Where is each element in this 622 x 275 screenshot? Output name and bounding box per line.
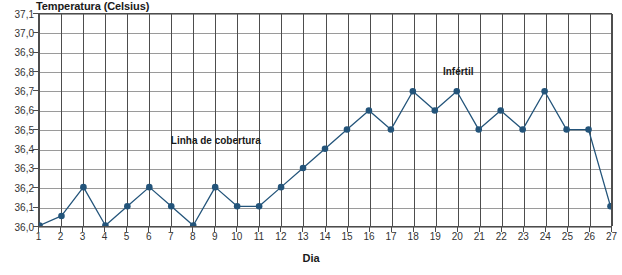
x-tick-mark [236,227,237,232]
y-tick-mark [33,90,38,91]
chart-annotation-label: Infértil [443,65,474,76]
y-tick-label: 36,2 [0,182,34,193]
x-tick-label: 27 [606,231,617,242]
x-tick-mark [369,227,370,232]
x-tick-label: 5 [124,231,130,242]
y-tick-mark [33,52,38,53]
x-tick-label: 24 [540,231,551,242]
y-tick-mark [33,110,38,111]
x-tick-mark [280,227,281,232]
plot-area: Linha de coberturaInfértil [38,13,612,227]
x-tick-label: 4 [102,231,108,242]
x-tick-label: 3 [80,231,86,242]
y-tick-label: 36,1 [0,202,34,213]
x-tick-mark [457,227,458,232]
y-tick-mark [33,129,38,130]
x-tick-mark [192,227,193,232]
y-axis-title: Temperatura (Celsius) [36,0,149,12]
y-tick-label: 36,3 [0,163,34,174]
y-tick-label: 36,0 [0,221,34,232]
x-tick-label: 14 [319,231,330,242]
x-tick-mark [567,227,568,232]
gridline-vertical [612,14,613,226]
temperature-chart: Temperatura (Celsius) Linha de cobertura… [0,0,622,275]
chart-annotations: Linha de coberturaInfértil [39,14,611,226]
y-tick-mark [33,71,38,72]
x-tick-label: 18 [408,231,419,242]
x-tick-mark [148,227,149,232]
y-tick-label: 36,9 [0,47,34,58]
x-tick-mark [82,227,83,232]
x-tick-mark [60,227,61,232]
x-tick-mark [38,227,39,232]
x-tick-mark [391,227,392,232]
y-tick-label: 36,8 [0,66,34,77]
x-tick-label: 11 [254,231,264,242]
x-tick-label: 21 [474,231,485,242]
x-tick-label: 13 [297,231,308,242]
y-tick-label: 36,6 [0,105,34,116]
x-tick-label: 22 [496,231,507,242]
x-tick-mark [347,227,348,232]
x-tick-mark [413,227,414,232]
x-tick-label: 9 [212,231,218,242]
x-tick-mark [523,227,524,232]
y-tick-label: 36,7 [0,85,34,96]
x-tick-mark [545,227,546,232]
x-tick-label: 7 [168,231,174,242]
x-tick-mark [435,227,436,232]
x-tick-label: 8 [190,231,196,242]
y-tick-mark [33,149,38,150]
x-tick-mark [479,227,480,232]
x-tick-label: 12 [275,231,286,242]
y-tick-label: 37,0 [0,27,34,38]
x-tick-label: 25 [562,231,573,242]
y-tick-mark [33,13,38,14]
x-tick-label: 26 [584,231,595,242]
x-tick-mark [611,227,612,232]
x-tick-label: 19 [430,231,441,242]
x-tick-mark [214,227,215,232]
y-tick-mark [33,32,38,33]
x-tick-mark [126,227,127,232]
y-tick-label: 36,5 [0,124,34,135]
x-tick-label: 6 [146,231,152,242]
x-tick-mark [170,227,171,232]
x-tick-mark [501,227,502,232]
y-tick-mark [33,187,38,188]
x-tick-mark [302,227,303,232]
x-tick-label: 17 [386,231,397,242]
chart-annotation-label: Linha de cobertura [171,135,261,146]
y-tick-label: 37,1 [0,8,34,19]
y-tick-mark [33,207,38,208]
x-tick-mark [325,227,326,232]
x-tick-label: 2 [58,231,64,242]
x-tick-label: 15 [341,231,352,242]
x-tick-mark [589,227,590,232]
y-tick-mark [33,168,38,169]
x-tick-label: 16 [364,231,375,242]
x-tick-label: 10 [231,231,242,242]
x-tick-mark [258,227,259,232]
x-tick-label: 20 [452,231,463,242]
x-tick-label: 23 [518,231,529,242]
x-axis-title: Dia [0,252,622,264]
x-tick-label: 1 [36,231,42,242]
x-tick-mark [104,227,105,232]
y-tick-label: 36,4 [0,144,34,155]
